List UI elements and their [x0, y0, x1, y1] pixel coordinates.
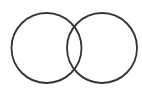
right-circle: [67, 13, 137, 83]
venn-diagram: [0, 0, 142, 91]
left-circle: [12, 13, 82, 83]
